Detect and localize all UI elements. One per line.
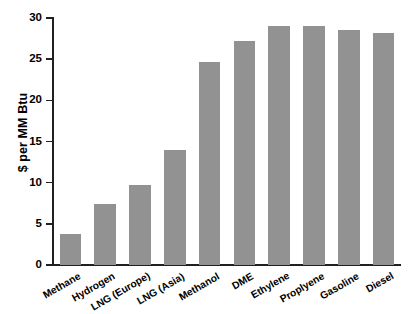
bar [234,41,256,265]
bar [94,204,116,265]
y-tick-label: 10 [12,177,42,189]
bar-chart: $ per MM Btu 051015202530 MethaneHydroge… [0,0,411,314]
y-tick-mark [46,182,53,184]
bar [199,62,221,265]
bar [268,26,290,265]
y-tick-label: 20 [12,94,42,106]
y-tick-label: 15 [12,136,42,148]
bar [129,185,151,265]
y-tick-mark [46,264,53,266]
y-tick-mark [46,58,53,60]
bar [164,150,186,265]
y-tick-label: 5 [12,218,42,230]
y-tick-mark [46,17,53,19]
y-tick-mark [46,223,53,225]
x-axis-labels: MethaneHydrogenLNG (Europe)LNG (Asia)Met… [53,268,401,314]
y-tick-mark [46,100,53,102]
y-tick-label: 30 [12,12,42,24]
y-tick-label: 0 [12,259,42,271]
plot-area [53,18,401,265]
x-axis-category-label: Gasoline [318,270,361,301]
bar [60,234,82,265]
bar [373,33,395,265]
bar [338,30,360,265]
bar [303,26,325,265]
y-tick-label: 25 [12,53,42,65]
x-axis-category-label: Diesel [364,270,395,295]
y-tick-mark [46,141,53,143]
